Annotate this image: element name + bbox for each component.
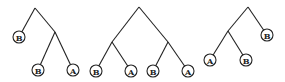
- tree-2-edge: [139, 7, 168, 42]
- leaf-label: A: [206, 56, 214, 66]
- tree-2-leaf-1: B: [90, 65, 102, 77]
- tree-1-leaf-1: B: [13, 31, 25, 43]
- leaf-label: A: [127, 67, 135, 77]
- tree-2-leaf-2: A: [125, 65, 137, 77]
- tree-3-leaf-3: B: [240, 54, 252, 66]
- tree-2: B A B A: [90, 7, 194, 77]
- tree-3: B A B: [204, 7, 273, 66]
- tree-2-leaf-4: A: [182, 65, 194, 77]
- tree-3-edge: [228, 7, 248, 31]
- leaf-label: A: [69, 66, 77, 76]
- leaf-label: B: [93, 67, 100, 77]
- tree-3-leaf-1: B: [261, 29, 273, 41]
- tree-3-leaf-2: A: [204, 54, 216, 66]
- tree-1: B B A: [13, 8, 79, 76]
- tree-1-edge: [35, 8, 55, 32]
- leaf-label: B: [264, 31, 271, 41]
- leaf-label: B: [150, 67, 157, 77]
- leaf-label: A: [184, 67, 192, 77]
- leaf-label: B: [243, 56, 250, 66]
- tree-2-leaf-3: B: [147, 65, 159, 77]
- tree-1-leaf-2: B: [32, 64, 44, 76]
- leaf-label: B: [16, 33, 23, 43]
- tree-diagrams: B B A B A B A B: [0, 0, 285, 82]
- leaf-label: B: [35, 66, 42, 76]
- tree-2-edge: [112, 7, 139, 42]
- tree-1-leaf-3: A: [67, 64, 79, 76]
